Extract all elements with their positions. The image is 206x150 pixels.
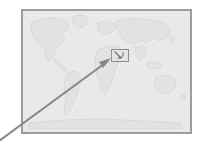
screenshot-canvas: [0, 0, 206, 150]
region-of-interest-box[interactable]: [111, 49, 129, 62]
world-map-graphic: [23, 11, 190, 132]
world-map-panel[interactable]: [21, 9, 192, 134]
region-marker-icon: [112, 50, 128, 61]
